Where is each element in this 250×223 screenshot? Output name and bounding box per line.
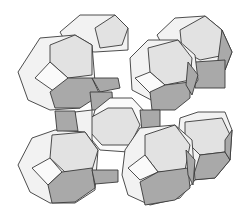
truncated-octahedra-drawing — [0, 0, 250, 223]
cage-top-right-front — [130, 40, 198, 110]
zeolite-structure-figure — [0, 0, 250, 223]
